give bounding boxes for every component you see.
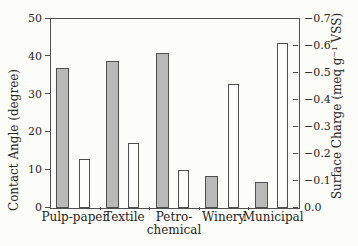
- left-axis-tick: [45, 207, 50, 208]
- right-axis-tick: [293, 126, 298, 127]
- right-axis-tick: [293, 99, 298, 100]
- left-axis-tick-label: 20: [20, 126, 42, 137]
- left-axis-tick-label: 50: [20, 13, 42, 24]
- right-axis-tick: [293, 18, 298, 19]
- left-axis-tick-label: 30: [20, 89, 42, 100]
- category-label: Municipal: [235, 211, 311, 224]
- contact-angle-bar: [205, 176, 218, 208]
- contact-angle-bar: [156, 53, 169, 208]
- x-axis-boundary-tick: [149, 207, 150, 210]
- contact-angle-bar: [56, 68, 69, 208]
- bar-chart-figure: Contact Angle (degree) Surface Charge (m…: [0, 0, 358, 246]
- surface-charge-bar: [178, 170, 189, 208]
- left-axis-title: Contact Angle (degree): [7, 69, 21, 211]
- right-axis-tick-label: −0.4: [304, 94, 331, 105]
- right-axis-tick: [293, 180, 298, 181]
- right-axis-tick-label: −0.2: [304, 148, 331, 159]
- surface-charge-bar: [277, 43, 288, 208]
- plot-area: [50, 18, 300, 209]
- right-axis-tick: [293, 153, 298, 154]
- right-axis-tick-label: −0.5: [304, 67, 331, 78]
- right-axis-title: Surface Charge (meq g⁻¹ VSS): [330, 13, 344, 199]
- surface-charge-bar: [228, 84, 239, 208]
- surface-charge-bar: [128, 143, 139, 208]
- left-axis-tick: [45, 18, 50, 19]
- right-axis-tick-label: −0.3: [304, 121, 331, 132]
- right-axis-tick: [293, 45, 298, 46]
- left-axis-tick-label: 40: [20, 51, 42, 62]
- contact-angle-bar: [255, 182, 268, 209]
- right-axis-tick-label: −0.1: [304, 175, 331, 186]
- x-axis-boundary-tick: [100, 207, 101, 210]
- contact-angle-bar: [106, 61, 119, 208]
- surface-charge-bar: [79, 159, 90, 208]
- left-axis-tick: [45, 55, 50, 56]
- left-axis-tick: [45, 131, 50, 132]
- x-axis-boundary-tick: [199, 207, 200, 210]
- right-axis-tick: [293, 207, 298, 208]
- right-axis-tick-label: −0.6: [304, 40, 331, 51]
- right-axis-tick-label: −0.7: [304, 13, 331, 24]
- right-axis-tick: [293, 72, 298, 73]
- left-axis-tick: [45, 169, 50, 170]
- left-axis-tick: [45, 93, 50, 94]
- left-axis-tick-label: 10: [20, 164, 42, 175]
